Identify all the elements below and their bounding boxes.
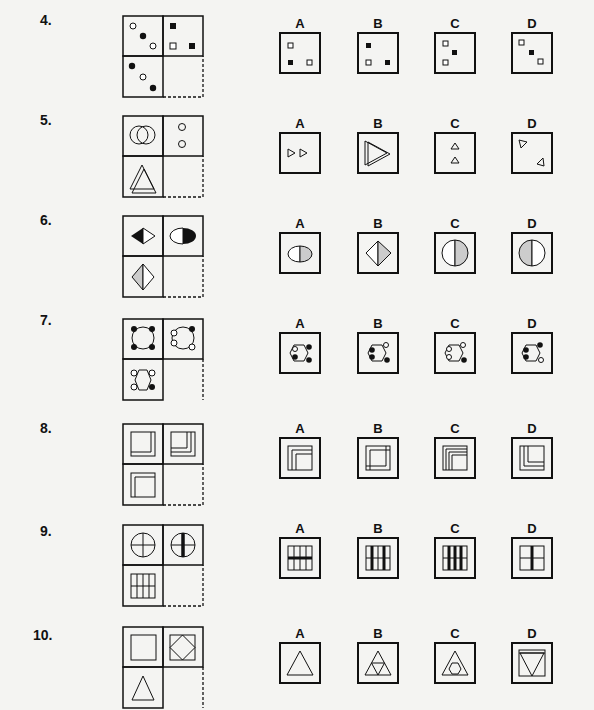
option-q6-b[interactable]: B: [357, 215, 399, 274]
option-q5-c[interactable]: C: [434, 115, 476, 174]
option-q6-c[interactable]: C: [434, 215, 476, 274]
option-label: C: [434, 115, 476, 132]
option-label: A: [279, 115, 321, 132]
option-q7-a[interactable]: A: [279, 315, 321, 374]
question-number-6: 6.: [40, 212, 52, 228]
option-q9-a[interactable]: A: [279, 520, 321, 579]
option-label: B: [357, 15, 399, 32]
option-q9-b[interactable]: B: [357, 520, 399, 579]
option-label: B: [357, 315, 399, 332]
option-label: B: [357, 420, 399, 437]
option-q8-d[interactable]: D: [511, 420, 553, 479]
option-label: C: [434, 625, 476, 642]
option-q8-a[interactable]: A: [279, 420, 321, 479]
option-label: B: [357, 115, 399, 132]
option-q5-b[interactable]: B: [357, 115, 399, 174]
question-number-10: 10.: [33, 627, 52, 643]
option-label: A: [279, 520, 321, 537]
question-number-9: 9.: [40, 523, 52, 539]
option-label: D: [511, 420, 553, 437]
option-label: A: [279, 625, 321, 642]
option-q6-d[interactable]: D: [511, 215, 553, 274]
option-q8-b[interactable]: B: [357, 420, 399, 479]
option-q10-b[interactable]: B: [357, 625, 399, 684]
option-label: B: [357, 625, 399, 642]
matrix-q9: [122, 524, 202, 606]
option-q4-b[interactable]: B: [357, 15, 399, 74]
option-label: C: [434, 420, 476, 437]
option-q8-c[interactable]: C: [434, 420, 476, 479]
option-label: A: [279, 420, 321, 437]
option-label: B: [357, 215, 399, 232]
matrix-q8: [122, 423, 202, 505]
option-q5-a[interactable]: A: [279, 115, 321, 174]
matrix-q4: [122, 15, 202, 97]
question-number-7: 7.: [40, 312, 52, 328]
option-label: D: [511, 520, 553, 537]
option-label: B: [357, 520, 399, 537]
matrix-q5: [122, 115, 202, 197]
option-q6-a[interactable]: A: [279, 215, 321, 274]
option-label: D: [511, 215, 553, 232]
question-number-5: 5.: [40, 112, 52, 128]
matrix-q7: [122, 318, 202, 400]
option-label: A: [279, 15, 321, 32]
option-q7-c[interactable]: C: [434, 315, 476, 374]
matrix-q6: [122, 215, 202, 297]
option-label: C: [434, 315, 476, 332]
option-label: C: [434, 15, 476, 32]
option-q4-a[interactable]: A: [279, 15, 321, 74]
option-label: D: [511, 15, 553, 32]
option-q7-d[interactable]: D: [511, 315, 553, 374]
option-label: D: [511, 315, 553, 332]
option-label: D: [511, 115, 553, 132]
option-q7-b[interactable]: B: [357, 315, 399, 374]
option-q4-c[interactable]: C: [434, 15, 476, 74]
option-label: C: [434, 215, 476, 232]
option-label: A: [279, 315, 321, 332]
option-label: A: [279, 215, 321, 232]
question-number-4: 4.: [40, 12, 52, 28]
option-q10-a[interactable]: A: [279, 625, 321, 684]
option-label: C: [434, 520, 476, 537]
option-q10-c[interactable]: C: [434, 625, 476, 684]
option-q9-d[interactable]: D: [511, 520, 553, 579]
option-q5-d[interactable]: D: [511, 115, 553, 174]
option-q9-c[interactable]: C: [434, 520, 476, 579]
option-q10-d[interactable]: D: [511, 625, 553, 684]
option-q4-d[interactable]: D: [511, 15, 553, 74]
option-label: D: [511, 625, 553, 642]
matrix-q10: [122, 626, 202, 708]
question-number-8: 8.: [40, 420, 52, 436]
